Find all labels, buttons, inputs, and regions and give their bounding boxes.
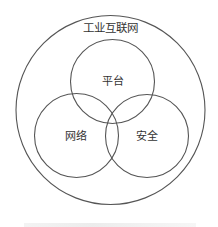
security-label: 安全 xyxy=(136,129,158,143)
outer-label: 工业互联网 xyxy=(83,21,138,35)
network-label: 网络 xyxy=(65,129,87,143)
platform-label: 平台 xyxy=(102,74,124,88)
cropped-caption xyxy=(24,223,196,227)
venn-diagram: 工业互联网 平台 网络 安全 xyxy=(0,0,218,227)
